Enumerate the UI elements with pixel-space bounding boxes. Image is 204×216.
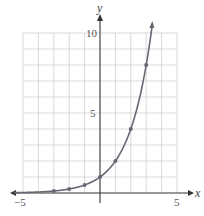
data-point — [52, 189, 56, 193]
data-point — [83, 183, 87, 187]
data-point — [113, 159, 117, 163]
x-tick-min: −5 — [14, 196, 26, 208]
data-point — [67, 187, 71, 191]
x-tick-max: 5 — [174, 196, 180, 208]
data-point — [98, 175, 102, 179]
y-axis-label: y — [96, 1, 103, 15]
data-point — [129, 127, 133, 131]
data-points — [52, 21, 155, 193]
y-tick-10: 10 — [86, 27, 98, 39]
y-tick-5: 5 — [90, 107, 96, 119]
exponential-chart: y x −5 5 5 10 — [0, 0, 204, 216]
x-axis-label: x — [194, 186, 201, 200]
data-point — [144, 63, 148, 67]
